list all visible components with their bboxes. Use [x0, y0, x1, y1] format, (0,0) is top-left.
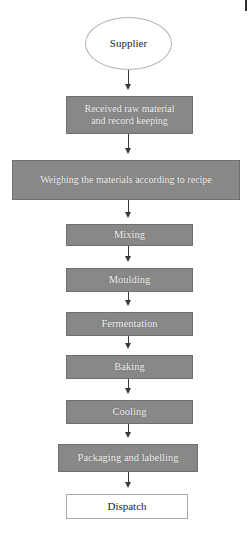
arrowhead-weighing-to-mixing — [125, 212, 131, 218]
flow-node-label-baking: Baking — [111, 361, 147, 374]
flow-node-label-packaging-and-labelling: Packaging and labelling — [75, 452, 182, 465]
flow-node-baking: Baking — [66, 355, 193, 379]
connector-supplier-to-received — [128, 70, 129, 85]
flow-node-label-cooling: Cooling — [110, 406, 150, 419]
flow-node-weighing-materials: Weighing the materials according to reci… — [12, 160, 240, 200]
flow-node-label-fermentation: Fermentation — [99, 318, 161, 331]
flowchart-canvas: SupplierReceived raw material and record… — [0, 0, 252, 539]
flow-node-label-moulding: Moulding — [106, 274, 153, 287]
flow-node-label-supplier: Supplier — [107, 37, 150, 50]
flow-node-label-weighing-materials: Weighing the materials according to reci… — [37, 174, 215, 186]
arrowhead-fermentation-to-baking — [125, 343, 131, 349]
flow-node-moulding: Moulding — [66, 268, 193, 292]
flow-node-supplier: Supplier — [85, 17, 172, 70]
page-edge-mark — [245, 0, 247, 11]
arrowhead-cooling-to-packaging — [125, 432, 131, 438]
arrowhead-supplier-to-received — [125, 84, 131, 90]
arrowhead-baking-to-cooling — [125, 388, 131, 394]
arrowhead-packaging-to-dispatch — [125, 482, 131, 488]
flow-node-mixing: Mixing — [66, 224, 193, 246]
flow-node-fermentation: Fermentation — [66, 312, 193, 336]
flow-node-cooling: Cooling — [66, 400, 193, 424]
flow-node-received-raw-material: Received raw material and record keeping — [66, 96, 193, 134]
flow-node-packaging-and-labelling: Packaging and labelling — [58, 444, 198, 472]
flow-node-label-dispatch: Dispatch — [104, 500, 149, 513]
arrowhead-mixing-to-moulding — [125, 256, 131, 262]
flow-node-dispatch: Dispatch — [66, 494, 188, 519]
arrowhead-moulding-to-fermentation — [125, 300, 131, 306]
arrowhead-received-to-weighing — [125, 148, 131, 154]
flow-node-label-received-raw-material: Received raw material and record keeping — [82, 103, 178, 127]
connector-received-to-weighing — [128, 134, 129, 149]
flow-node-label-mixing: Mixing — [111, 229, 148, 242]
